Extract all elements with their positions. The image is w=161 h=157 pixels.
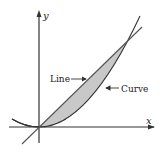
y-axis-arrow-icon xyxy=(37,10,42,17)
line-label: Line xyxy=(50,74,70,84)
x-axis-label: x xyxy=(146,115,152,126)
curve-left-part xyxy=(12,119,39,127)
y-axis-label: y xyxy=(42,10,49,21)
curve-label: Curve xyxy=(121,84,148,94)
area-between-curves-diagram: y x Line Curve xyxy=(0,0,161,157)
